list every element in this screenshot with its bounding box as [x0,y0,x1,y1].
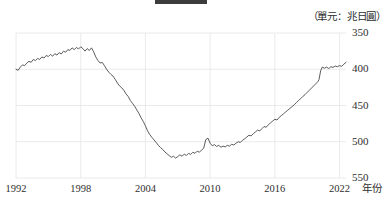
chart-figure: （單元：兆日圓） 550500450400350 199219982004201… [0,0,392,211]
x-axis-tick-label: 2022 [329,183,350,194]
y-axis-tick-label: 350 [352,27,369,38]
x-axis-tick-label: 1998 [70,183,91,194]
x-axis-title: 年份 [362,183,382,194]
title-text-crop [212,0,352,3]
plot-svg [16,33,346,178]
plot-area [16,33,346,178]
x-axis-tick-label: 2004 [135,183,156,194]
y-axis-tick-label: 450 [352,100,369,111]
y-axis-tick-label: 550 [352,172,369,183]
source-note-crop [288,207,384,211]
y-axis-tick-label: 400 [352,63,369,74]
y-axis-tick-label: 500 [352,136,369,147]
gridlines [16,33,346,178]
x-axis-tick-label: 2016 [264,183,285,194]
title-bar-crop [155,0,207,4]
x-axis-tick-label: 1992 [6,183,27,194]
unit-label: （單元：兆日圓） [308,10,386,23]
x-axis-tick-label: 2010 [200,183,221,194]
